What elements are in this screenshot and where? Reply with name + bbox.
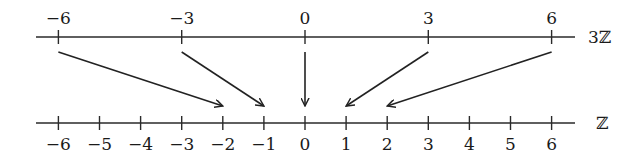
top-tick-label: 3	[423, 8, 434, 28]
bottom-axis-ticks: −6−5−4−3−2−10123456	[46, 116, 557, 154]
top-axis-3z: −6−3036 3ℤ	[36, 8, 611, 47]
mapping-arrow	[387, 52, 551, 106]
mapping-arrow	[182, 52, 264, 106]
bottom-axis-label: ℤ	[596, 113, 608, 133]
top-axis-label: 3ℤ	[588, 27, 611, 47]
mapping-arrow	[346, 52, 428, 106]
bottom-tick-label: 3	[423, 134, 434, 154]
bottom-tick-label: −3	[169, 134, 194, 154]
bottom-tick-label: 0	[300, 134, 311, 154]
bottom-tick-label: 5	[505, 134, 516, 154]
bottom-tick-label: −1	[251, 134, 276, 154]
bottom-tick-label: −4	[128, 134, 153, 154]
bottom-tick-label: 4	[464, 134, 475, 154]
top-tick-label: −3	[169, 8, 194, 28]
bottom-tick-label: −5	[87, 134, 112, 154]
number-line-diagram: −6−3036 3ℤ −6−5−4−3−2−10123456 ℤ	[0, 0, 636, 162]
bottom-tick-label: 6	[546, 134, 557, 154]
bottom-tick-label: 2	[382, 134, 393, 154]
top-axis-ticks: −6−3036	[46, 8, 557, 44]
bottom-tick-label: −6	[46, 134, 71, 154]
mapping-arrows	[58, 52, 551, 106]
diagram-canvas: −6−3036 3ℤ −6−5−4−3−2−10123456 ℤ	[0, 0, 636, 162]
mapping-arrow	[58, 52, 222, 106]
bottom-tick-label: −2	[210, 134, 235, 154]
top-tick-label: 6	[546, 8, 557, 28]
top-tick-label: −6	[46, 8, 71, 28]
bottom-axis-z: −6−5−4−3−2−10123456 ℤ	[36, 113, 608, 154]
top-tick-label: 0	[300, 8, 311, 28]
bottom-tick-label: 1	[341, 134, 352, 154]
